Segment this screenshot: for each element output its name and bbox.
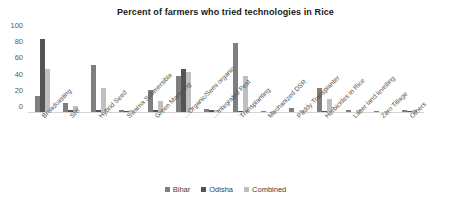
x-axis-label-slot: Transplanting xyxy=(226,113,254,179)
y-axis: 020406080100 xyxy=(0,26,26,112)
y-axis-tick: 60 xyxy=(15,55,23,63)
chart-container: Percent of farmers who tried technologie… xyxy=(0,0,451,209)
legend-swatch-icon xyxy=(201,187,206,192)
x-axis-label-slot: Others xyxy=(396,113,424,179)
legend-item-bihar[interactable]: Bihar xyxy=(165,186,191,194)
x-axis-label-slot: Organic/Semi organic… xyxy=(169,113,197,179)
y-axis-tick: 100 xyxy=(10,22,23,30)
x-axis-labels: BroadcastingSRIHybrid SeedSwarna Submers… xyxy=(28,113,424,179)
y-axis-tick: 40 xyxy=(15,71,23,79)
x-axis-label-slot: Mechanized DSR xyxy=(254,113,282,179)
y-axis-tick: 80 xyxy=(15,38,23,46)
y-axis-tick: 0 xyxy=(19,103,23,111)
x-axis-label-slot: Hybrid Seed xyxy=(85,113,113,179)
legend-swatch-icon xyxy=(244,187,249,192)
legend-item-combined[interactable]: Combined xyxy=(244,186,286,194)
chart-title: Percent of farmers who tried technologie… xyxy=(0,7,451,17)
x-axis-label-slot: Paddy Transplanter xyxy=(283,113,311,179)
x-axis-label-slot: Herbicides in Rice xyxy=(311,113,339,179)
x-axis-label-slot: Zero Tillage xyxy=(367,113,395,179)
x-axis-label-slot: SRI xyxy=(56,113,84,179)
legend-swatch-icon xyxy=(165,187,170,192)
chart-legend: BiharOdishaCombined xyxy=(0,186,451,194)
bar-bihar xyxy=(91,65,96,112)
legend-item-odisha[interactable]: Odisha xyxy=(201,186,233,194)
x-axis-label-slot: Integrated Pest… xyxy=(198,113,226,179)
legend-label: Odisha xyxy=(209,186,233,194)
x-axis-label-slot: Green Manuring xyxy=(141,113,169,179)
y-axis-tick: 20 xyxy=(15,87,23,95)
x-axis-label-slot: Swarna Submersible xyxy=(113,113,141,179)
legend-label: Combined xyxy=(252,186,286,194)
x-axis-label-slot: Broadcasting xyxy=(28,113,56,179)
legend-label: Bihar xyxy=(173,186,191,194)
bar-group xyxy=(85,31,113,112)
x-axis-label-slot: Laser land levelling xyxy=(339,113,367,179)
bar-group xyxy=(28,31,56,112)
